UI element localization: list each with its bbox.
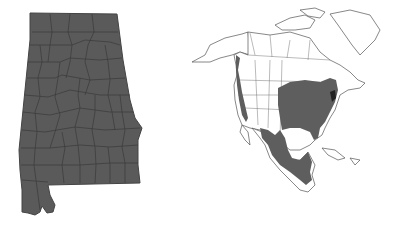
greenland-outline bbox=[330, 10, 380, 55]
alabama-state-shape bbox=[19, 13, 142, 215]
north-america-range-map: North America range map bbox=[190, 0, 396, 230]
alabama-map-graphic bbox=[0, 0, 180, 230]
alabama-county-map: Alabama county map bbox=[0, 0, 180, 230]
north-america-map-graphic bbox=[190, 0, 396, 230]
caribbean-outline bbox=[322, 148, 345, 160]
arctic-islands-outline bbox=[275, 15, 315, 30]
